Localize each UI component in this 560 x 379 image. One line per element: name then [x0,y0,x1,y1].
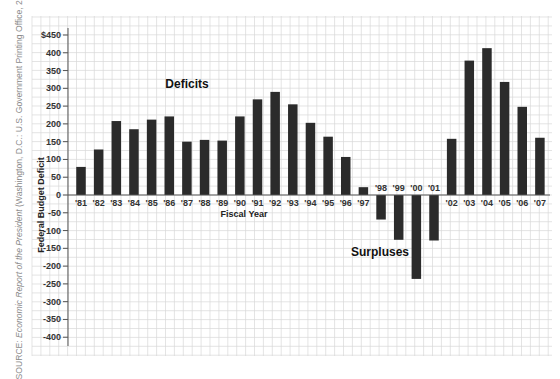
x-tick-label: '95 [322,198,334,208]
bar-88 [200,140,210,195]
y-axis-title: Federal Budget Deficit [36,157,46,253]
y-tick-label: 250 [46,101,61,111]
x-tick-label: '05 [499,198,511,208]
bar-81 [76,167,86,195]
x-tick-label: '88 [198,198,210,208]
bar-02 [447,139,457,195]
x-tick-label: '00 [410,183,422,193]
x-tick-label: '87 [181,198,193,208]
y-tick-label: $450 [41,30,61,40]
bar-98 [376,195,386,220]
x-tick-label: '97 [357,198,369,208]
bar-01 [429,195,439,241]
y-tick-label: 50 [51,172,61,182]
annotation-deficits: Deficits [165,77,209,91]
bar-95 [323,137,333,195]
bar-83 [112,121,122,195]
x-tick-label: '89 [216,198,228,208]
x-tick-label: '91 [251,198,263,208]
y-tick-label: 200 [46,119,61,129]
y-tick-label: -200 [43,261,61,271]
bar-05 [500,82,510,195]
bar-84 [129,129,139,195]
bar-00 [412,195,422,279]
x-tick-label: '82 [93,198,105,208]
bar-93 [288,104,298,195]
x-tick-label: '93 [287,198,299,208]
x-tick-label: '84 [128,198,140,208]
x-tick-label: '02 [446,198,458,208]
bar-04 [482,48,492,195]
x-tick-label: '98 [375,183,387,193]
y-tick-label: 350 [46,66,61,76]
y-tick-label: -50 [48,208,61,218]
bar-06 [518,107,528,195]
x-tick-label: '99 [393,183,405,193]
y-tick-label: 300 [46,83,61,93]
y-tick-label: -250 [43,279,61,289]
bar-82 [94,149,104,195]
bar-85 [147,120,157,195]
y-tick-label: -350 [43,314,61,324]
y-tick-label: 150 [46,137,61,147]
bar-07 [535,138,545,195]
x-axis-title: Fiscal Year [221,209,268,219]
x-tick-label: '07 [534,198,546,208]
bar-96 [341,157,351,195]
y-tick-label: -300 [43,297,61,307]
x-tick-label: '06 [516,198,528,208]
bar-99 [394,195,404,240]
x-tick-label: '92 [269,198,281,208]
x-tick-label: '81 [75,198,87,208]
bar-97 [359,187,369,195]
x-tick-label: '86 [163,198,175,208]
bars [76,48,544,279]
x-tick-label: '03 [463,198,475,208]
x-tick-label: '94 [304,198,316,208]
y-tick-label: 400 [46,48,61,58]
y-tick-label: 100 [46,154,61,164]
bar-94 [306,123,316,195]
bar-92 [270,92,280,195]
bar-91 [253,99,263,195]
y-tick-label: -400 [43,332,61,342]
x-tick-label: '90 [234,198,246,208]
bar-87 [182,142,192,195]
x-tick-label: '85 [146,198,158,208]
bar-89 [217,141,227,195]
bar-90 [235,116,245,195]
annotation-surpluses: Surpluses [351,245,409,259]
x-tick-label: '96 [340,198,352,208]
y-tick-label: 0 [56,190,61,200]
bar-03 [465,61,475,195]
x-tick-label: '83 [110,198,122,208]
bar-86 [165,116,175,195]
x-tick-label: '01 [428,183,440,193]
x-tick-label: '04 [481,198,493,208]
